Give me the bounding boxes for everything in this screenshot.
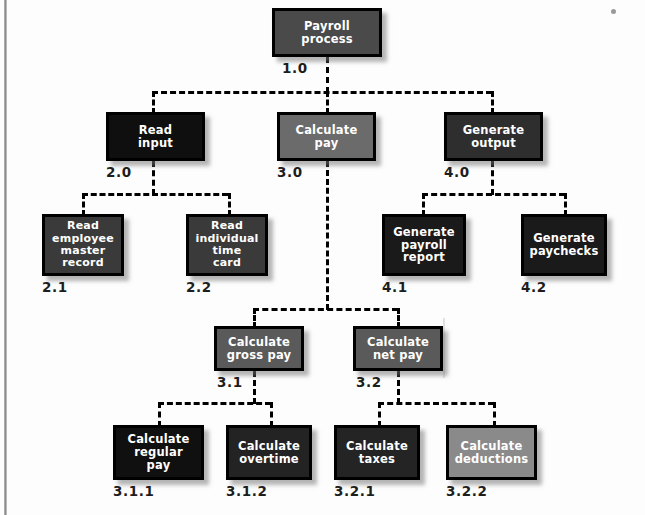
connector-line-root-down	[326, 57, 329, 93]
connector-line-gen-out-down	[491, 161, 494, 195]
reference-number-3-0: 3.0	[277, 164, 303, 180]
process-node-4-1[interactable]: Generate payroll report	[382, 214, 466, 276]
process-node-3-1-1[interactable]: Calculate regular pay	[113, 425, 204, 480]
process-node-3-1[interactable]: Calculate gross pay	[214, 326, 304, 371]
connector-line-calc-drop	[326, 91, 329, 114]
process-node-4-0[interactable]: Generate output	[444, 112, 543, 161]
process-node-1-0[interactable]: Payroll process	[272, 8, 382, 57]
connector-line-read-in-down	[152, 161, 155, 195]
reference-number-3-2-2: 3.2.2	[446, 483, 487, 499]
reference-number-2-2: 2.2	[186, 279, 212, 295]
connector-line-ded-drop	[493, 402, 496, 427]
reference-number-4-1: 4.1	[382, 279, 408, 295]
reference-number-2-0: 2.0	[106, 164, 132, 180]
connector-bus-root-bus	[152, 91, 492, 94]
connector-line-emp-drop	[82, 193, 85, 216]
reference-number-2-1: 2.1	[42, 279, 68, 295]
scan-speck-artifact	[611, 9, 616, 14]
connector-line-gen-drop	[491, 91, 494, 114]
process-node-4-2[interactable]: Generate paychecks	[521, 214, 607, 276]
process-node-2-1[interactable]: Read employee master record	[42, 214, 124, 276]
process-node-3-2-1[interactable]: Calculate taxes	[334, 425, 420, 480]
process-node-3-2[interactable]: Calculate net pay	[353, 326, 443, 371]
connector-line-net-down	[397, 371, 400, 404]
reference-number-3-1-2: 3.1.2	[226, 483, 267, 499]
structure-chart-canvas: Payroll processRead inputCalculate payGe…	[0, 0, 645, 515]
reference-number-1-0: 1.0	[282, 60, 308, 76]
scan-streak-artifact	[443, 318, 445, 378]
connector-line-reg-drop	[158, 402, 161, 427]
connector-line-report-drop	[422, 193, 425, 216]
reference-number-4-2: 4.2	[521, 279, 547, 295]
connector-line-checks-drop	[564, 193, 567, 216]
connector-line-net-drop	[397, 308, 400, 328]
process-node-2-2[interactable]: Read individual time card	[186, 214, 268, 276]
page-edge-artifact	[4, 0, 7, 515]
reference-number-3-1: 3.1	[217, 374, 243, 390]
connector-bus-net-bus	[378, 402, 494, 405]
process-node-2-0[interactable]: Read input	[106, 112, 205, 161]
connector-line-gross-down	[253, 371, 256, 404]
connector-line-time-drop	[228, 193, 231, 216]
process-node-3-0[interactable]: Calculate pay	[277, 112, 376, 161]
process-node-3-2-2[interactable]: Calculate deductions	[446, 425, 537, 480]
reference-number-3-1-1: 3.1.1	[113, 483, 154, 499]
connector-line-tax-drop	[378, 402, 381, 427]
connector-line-gross-drop	[253, 308, 256, 328]
reference-number-3-2-1: 3.2.1	[334, 483, 375, 499]
reference-number-4-0: 4.0	[444, 164, 470, 180]
connector-line-calc-long-down	[326, 161, 329, 310]
process-node-3-1-2[interactable]: Calculate overtime	[226, 425, 312, 480]
connector-line-ot-drop	[270, 402, 273, 427]
connector-bus-read-bus	[82, 193, 228, 196]
connector-line-read-drop	[152, 91, 155, 114]
reference-number-3-2: 3.2	[356, 374, 382, 390]
